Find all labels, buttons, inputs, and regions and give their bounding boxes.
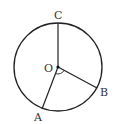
label-a: A xyxy=(33,111,43,124)
center-point-o xyxy=(56,65,59,68)
circle-diagram: C O A B xyxy=(0,0,115,124)
label-b: B xyxy=(100,86,108,99)
label-c: C xyxy=(54,9,62,22)
label-o: O xyxy=(44,62,53,75)
